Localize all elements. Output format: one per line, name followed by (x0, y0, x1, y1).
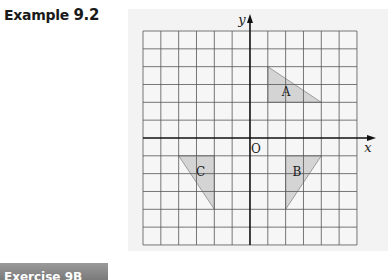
y-axis-arrow-icon (247, 14, 253, 23)
coordinate-grid-figure: yxOABC (0, 0, 392, 280)
triangle-label-c: C (196, 165, 205, 179)
y-axis-label: y (237, 12, 246, 27)
x-axis-label: x (364, 140, 372, 155)
exercise-label: Exercise 9B (4, 270, 82, 280)
triangle-label-b: B (292, 165, 301, 179)
exercise-header-bar: Exercise 9B (0, 263, 108, 280)
origin-label: O (251, 142, 261, 156)
triangle-label-a: A (281, 85, 291, 99)
